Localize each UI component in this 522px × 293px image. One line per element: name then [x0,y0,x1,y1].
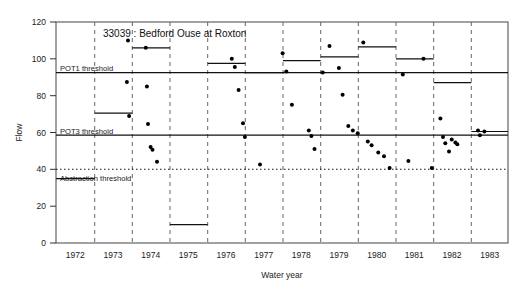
x-axis-title: Water year [261,270,302,280]
y-tick-label: 80 [37,91,47,101]
chart-figure: 0 20 40 60 80 100 120 Flow 1972 1973 197… [0,0,522,293]
pot1-threshold-label: POT1 threshold [60,64,113,73]
y-tick-label: 0 [41,238,46,248]
y-tick-label: 60 [37,128,47,138]
x-tick-label: 1978 [292,250,311,260]
x-tick-label: 1972 [66,250,85,260]
x-tick-label: 1982 [443,250,462,260]
x-tick-label: 1976 [217,250,236,260]
y-tick-label: 40 [37,164,47,174]
x-tick-label: 1981 [405,250,424,260]
y-tick-label: 120 [32,17,46,27]
pot3-threshold-label: POT3 threshold [60,127,113,136]
x-tick-label: 1980 [367,250,386,260]
y-tick-label: 20 [37,201,47,211]
x-tick-label: 1973 [104,250,123,260]
chart-title: 33039 : Bedford Ouse at Roxton [103,28,246,39]
abstraction-threshold-label: Abstraction threshold [60,174,131,183]
y-axis-title: Flow [14,123,24,142]
x-tick-label: 1979 [330,250,349,260]
x-tick-label: 1977 [254,250,273,260]
x-tick-label: 1974 [141,250,160,260]
y-tick-label: 100 [32,54,46,64]
x-tick-label: 1983 [480,250,499,260]
x-tick-label: 1975 [179,250,198,260]
